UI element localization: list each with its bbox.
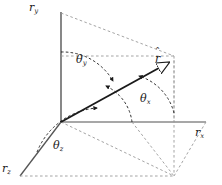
dash-floor-inner [132,122,174,176]
angle-label-theta-y-base: θ [76,53,83,66]
angle-label-theta-y: θy [76,54,86,67]
angle-label-theta-x: θx [140,93,150,106]
vector-direction-angles-svg [0,0,222,185]
angle-label-theta-y-sub: y [83,59,87,67]
construction-lines-group [20,13,206,176]
axis-label-rz-sub: z [7,168,11,176]
axis-label-rx: rx [195,127,204,140]
angle-arcs-group [37,52,174,152]
vector-label-r-hat-base: ˆr [155,53,160,64]
angle-label-theta-z: θz [53,140,63,153]
angle-label-theta-x-base: θ [140,92,147,105]
angle-label-theta-z-base: θ [53,139,60,152]
angle-label-theta-z-sub: z [60,145,64,153]
axis-label-rz: rz [2,163,11,176]
hat-accent-icon: ˆ [155,47,160,57]
axis-label-ry-sub: y [34,7,38,15]
arc-theta-z-aux [106,86,132,122]
axis-label-ry: ry [29,2,38,15]
angle-label-theta-x-sub: x [147,98,151,106]
vector-label-r-hat: ˆr [155,53,160,64]
figure-canvas: ry rx rz θy θx θz ˆr [0,0,222,185]
axis-label-rx-sub: x [200,132,204,140]
vector-r-hat-line [61,63,168,122]
arc-theta-z [37,108,97,152]
dash-floor-diag [61,122,174,176]
